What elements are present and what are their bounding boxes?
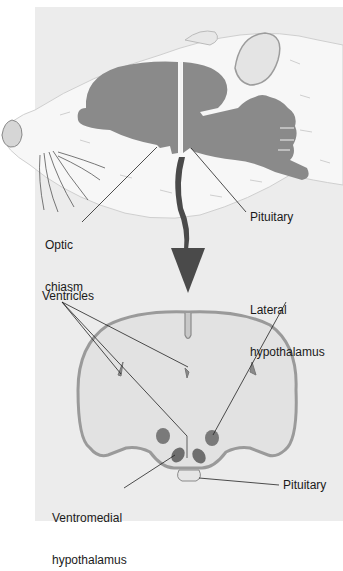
nose xyxy=(2,120,22,147)
label-ventromedial-hypothalamus: Ventromedial hypothalamus xyxy=(52,483,127,571)
arrow-head xyxy=(171,248,205,293)
lateral-hypothalamus-line2: hypothalamus xyxy=(250,345,325,359)
ventromedial-line1: Ventromedial xyxy=(52,511,127,525)
label-pituitary-top: Pituitary xyxy=(250,210,293,224)
optic-chiasm-line1: Optic xyxy=(45,238,83,252)
pituitary-gland xyxy=(178,470,201,481)
label-pituitary-bottom: Pituitary xyxy=(283,478,326,492)
left-lateral-hypothalamus-nucleus xyxy=(156,428,170,444)
label-lateral-hypothalamus: Lateral hypothalamus xyxy=(250,275,325,373)
right-lateral-hypothalamus-nucleus xyxy=(205,430,219,446)
midline-fissure xyxy=(185,313,191,339)
label-ventricles: Ventricles xyxy=(42,289,94,303)
ventromedial-line2: hypothalamus xyxy=(52,553,127,567)
lateral-hypothalamus-line1: Lateral xyxy=(250,303,325,317)
